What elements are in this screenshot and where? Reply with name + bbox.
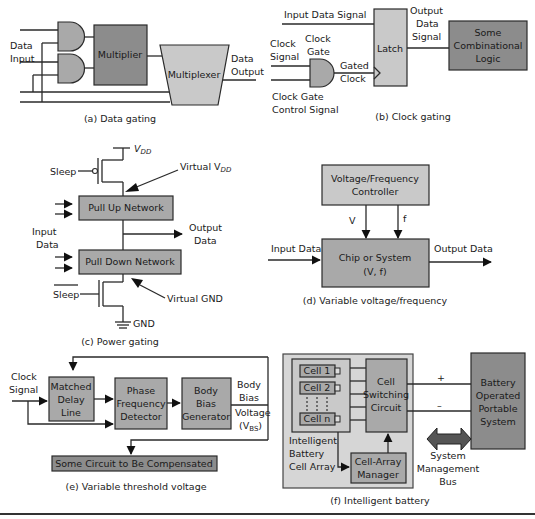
virtual-vdd-label: Virtual VDD	[180, 161, 232, 174]
input-data-signal-label: Input Data Signal	[284, 9, 367, 20]
cell-array-label: Cell Array	[289, 461, 336, 472]
bottom-rule	[0, 513, 535, 515]
matched-delay-line-label: Delay	[57, 394, 85, 405]
clock-signal-label: Signal	[9, 384, 38, 395]
cell-array-label: Intelligent	[289, 435, 337, 446]
panel-d-variable-voltage-frequency: Voltage/Frequency Controller V f Chip or…	[268, 165, 493, 306]
combinational-logic-label: Logic	[476, 53, 501, 64]
latch-label: Latch	[377, 43, 403, 54]
and-gate-icon	[58, 54, 84, 83]
clock-gate-label: Gate	[307, 46, 330, 57]
cell-array-label: Battery	[289, 448, 325, 459]
caption-e: (e) Variable threshold voltage	[65, 481, 206, 492]
cell-switching-circuit-label: Circuit	[371, 402, 402, 413]
output-data-signal-label: Data	[416, 18, 439, 29]
portable-system-label: Battery	[480, 377, 516, 388]
caption-d: (d) Variable voltage/frequency	[303, 295, 448, 306]
body-bias-voltage-label: Body	[237, 379, 261, 390]
clock-signal-label: Clock	[270, 38, 296, 49]
portable-system-block	[471, 353, 525, 449]
and-gate-icon	[58, 22, 85, 51]
output-data-signal-label: Signal	[412, 31, 441, 42]
cell-switching-circuit-label: Cell	[377, 376, 395, 387]
clock-gate-label: Clock	[305, 33, 331, 44]
pmos-bubble-icon	[93, 169, 98, 174]
panel-a-data-gating: Data Input Multiplier Multiplexer Data O…	[10, 22, 264, 124]
chip-or-system-label: Chip or System	[339, 252, 412, 263]
output-data-label: Data	[194, 235, 217, 246]
caption-a: (a) Data gating	[84, 113, 156, 124]
input-data-label: Data	[36, 239, 59, 250]
body-bias-generator-label: Body	[194, 385, 218, 396]
body-bias-voltage-label: Voltage	[235, 407, 271, 418]
chip-or-system-block	[322, 239, 429, 287]
clock-signal-label: Clock	[11, 371, 37, 382]
pull-down-network-label: Pull Down Network	[85, 256, 175, 267]
battery-cell-2: Cell 2	[300, 382, 340, 394]
panel-c-power-gating: VDD Sleep Virtual VDD Pull Up Network Ou…	[32, 143, 232, 347]
bus-label: System	[430, 450, 465, 461]
cell-array-manager-label: Manager	[357, 469, 399, 480]
phase-frequency-detector-label: Detector	[120, 411, 161, 422]
portable-system-label: System	[480, 416, 515, 427]
controller-label: Voltage/Frequency	[331, 173, 419, 184]
data-input-label: Input	[10, 53, 35, 64]
bidirectional-bus-arrow-icon	[427, 428, 471, 450]
bus-label: Management	[417, 463, 480, 474]
vdd-label: VDD	[134, 143, 152, 156]
gnd-label: GND	[133, 318, 155, 329]
sleep-label: Sleep	[50, 166, 76, 177]
battery-cell-1: Cell 1	[300, 365, 340, 377]
panel-f-intelligent-battery: Cell 1 Cell 2 Cell n Cell Switching Circ…	[283, 353, 525, 506]
plus-label: +	[437, 372, 445, 383]
input-data-label: Input	[32, 226, 57, 237]
gated-clock-label: Gated	[340, 60, 369, 71]
output-data-label: Output	[189, 222, 222, 233]
compensated-circuit-label: Some Circuit to Be Compensated	[55, 458, 212, 469]
f-label: f	[403, 213, 407, 224]
gated-clock-label: Clock	[340, 73, 366, 84]
body-bias-generator-label: Bias	[196, 398, 216, 409]
ground-icon	[115, 322, 131, 328]
phase-frequency-detector-label: Phase	[127, 385, 156, 396]
input-data-label: Input Data	[271, 243, 321, 254]
pull-up-network-label: Pull Up Network	[88, 202, 164, 213]
svg-text:Cell 1: Cell 1	[304, 365, 331, 376]
caption-b: (b) Clock gating	[375, 111, 451, 122]
clock-signal-label: Signal	[270, 51, 299, 62]
voltage-frequency-controller-block	[322, 165, 429, 205]
combinational-logic-label: Combinational	[454, 40, 523, 51]
panel-b-clock-gating: Input Data Signal Clock Signal Clock Gat…	[270, 5, 527, 122]
data-input-label: Data	[10, 40, 33, 51]
sleep-bar-label: Sleep	[53, 289, 79, 300]
battery-cell-n: Cell n	[300, 413, 340, 425]
minus-label: –	[437, 400, 442, 411]
control-signal-label: Control Signal	[272, 104, 339, 115]
multiplexer-label: Multiplexer	[168, 69, 221, 80]
control-signal-label: Clock Gate	[272, 91, 324, 102]
cell-switching-circuit-label: Switching	[363, 389, 409, 400]
low-power-techniques-diagram: Data Input Multiplier Multiplexer Data O…	[0, 0, 535, 519]
combinational-logic-label: Some	[475, 27, 502, 38]
body-bias-generator-label: Generator	[182, 411, 230, 422]
output-data-label: Output Data	[434, 243, 493, 254]
matched-delay-line-label: Matched	[51, 381, 92, 392]
phase-frequency-detector-label: Frequency	[116, 398, 165, 409]
and-gate-icon	[310, 59, 334, 87]
svg-text:Cell 2: Cell 2	[304, 382, 331, 393]
svg-text:Cell n: Cell n	[304, 413, 331, 424]
data-output-label: Output	[231, 66, 264, 77]
cell-array-manager-label: Cell-Array	[355, 456, 402, 467]
panel-e-variable-threshold-voltage: Clock Signal Matched Delay Line Phase Fr…	[9, 357, 271, 492]
controller-label: Controller	[352, 186, 399, 197]
body-bias-voltage-label: Bias	[239, 392, 259, 403]
matched-delay-line-label: Line	[61, 407, 81, 418]
data-output-label: Data	[231, 53, 254, 64]
bus-label: Bus	[439, 476, 457, 487]
multiplier-label: Multiplier	[98, 49, 142, 60]
caption-c: (c) Power gating	[81, 336, 159, 347]
v-label: V	[349, 215, 356, 226]
virtual-gnd-label: Virtual GND	[167, 293, 223, 304]
output-data-signal-label: Output	[410, 5, 443, 16]
portable-system-label: Operated	[476, 390, 521, 401]
